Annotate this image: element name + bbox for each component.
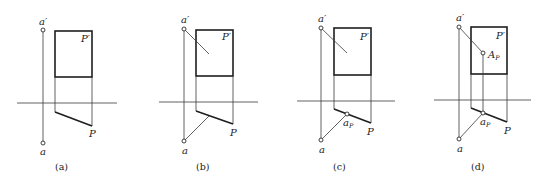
label-P: P: [366, 126, 374, 137]
label-P-prime: P′: [80, 33, 91, 44]
projection-diagram: a′ a P′ P (a) a′ a P′ P (b) a′: [0, 0, 545, 181]
point-a: [319, 138, 323, 142]
point-aP: [481, 111, 485, 115]
label-AP-main: A: [487, 49, 495, 60]
label-a-prime: a′: [39, 16, 48, 27]
label-P: P: [88, 128, 96, 139]
point-a-prime: [457, 25, 461, 29]
label-a-prime: a′: [456, 12, 465, 23]
label-aP-sub: P: [348, 122, 354, 130]
label-a: a: [457, 143, 463, 154]
label-AP: AP: [487, 49, 500, 62]
point-a: [182, 139, 186, 143]
label-a: a: [182, 145, 188, 156]
plane-top-view-edge: [196, 111, 233, 124]
label-P-prime: P′: [221, 31, 232, 42]
label-aP-sub: P: [485, 121, 491, 129]
panel-d: a′ a P′ P AP aP (d): [434, 12, 531, 172]
auxiliary-line-top: [184, 116, 209, 141]
label-aP: aP: [480, 116, 491, 129]
caption-a: (a): [55, 161, 68, 172]
point-a-prime: [319, 26, 323, 30]
label-a: a: [40, 146, 46, 157]
label-a-prime: a′: [181, 14, 190, 25]
label-AP-sub: P: [494, 54, 500, 62]
label-P: P: [503, 125, 511, 136]
point-a: [41, 141, 45, 145]
point-a-prime: [41, 28, 45, 32]
label-P-prime: P′: [359, 31, 370, 42]
point-AP: [481, 51, 485, 55]
caption-c: (c): [333, 161, 346, 172]
panel-b: a′ a P′ P (b): [159, 14, 258, 172]
caption-b: (b): [196, 161, 210, 172]
panel-c: a′ a P′ P aP (c): [297, 13, 395, 172]
label-P: P: [229, 127, 237, 138]
point-a: [457, 137, 461, 141]
plane-top-view-edge: [55, 112, 92, 126]
label-a-prime: a′: [318, 13, 327, 24]
label-P-prime: P′: [495, 30, 506, 41]
label-a: a: [319, 144, 325, 155]
panel-a: a′ a P′ P (a): [17, 16, 117, 172]
point-aP: [345, 112, 349, 116]
point-a-prime: [182, 27, 186, 31]
label-aP: aP: [343, 117, 354, 130]
caption-d: (d): [471, 161, 485, 172]
